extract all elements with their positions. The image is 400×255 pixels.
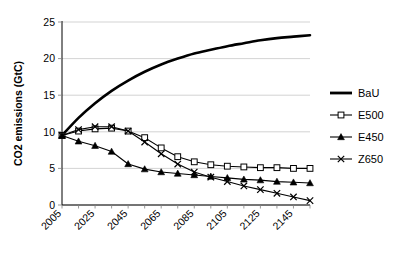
legend-label-e500: E500 <box>358 109 384 121</box>
y-tick-label: 15 <box>43 89 55 101</box>
marker-e500 <box>224 163 230 169</box>
marker-e500 <box>258 165 264 171</box>
co2-emissions-line-chart: 0510152025200520252045206520852105212521… <box>0 0 400 255</box>
x-tick-label: 2025 <box>71 207 96 232</box>
legend-marker-e500 <box>338 112 344 118</box>
y-tick-label: 25 <box>43 16 55 28</box>
marker-e500 <box>274 165 280 171</box>
y-tick-label: 5 <box>49 162 55 174</box>
x-tick-label: 2125 <box>237 207 262 232</box>
marker-e500 <box>191 159 197 165</box>
series-line-e500 <box>62 128 310 168</box>
x-tick-label: 2005 <box>38 207 63 232</box>
y-axis-title: CO2 emissions (GtC) <box>12 61 24 166</box>
legend-label-z650: Z650 <box>358 153 383 165</box>
marker-e500 <box>307 166 313 172</box>
series-line-bau <box>62 35 310 135</box>
chart-container: 0510152025200520252045206520852105212521… <box>0 0 400 255</box>
marker-e500 <box>291 166 297 172</box>
legend-label-e450: E450 <box>358 131 384 143</box>
marker-e450 <box>125 161 132 167</box>
marker-e500 <box>241 164 247 170</box>
marker-e500 <box>175 154 181 160</box>
legend-label-bau: BaU <box>358 87 379 99</box>
x-tick-label: 2045 <box>105 207 130 232</box>
x-tick-label: 2065 <box>138 207 163 232</box>
marker-e500 <box>158 145 164 151</box>
marker-e500 <box>208 162 214 168</box>
y-tick-label: 10 <box>43 126 55 138</box>
y-tick-label: 20 <box>43 52 55 64</box>
x-tick-label: 2105 <box>204 207 229 232</box>
x-tick-label: 2085 <box>171 207 196 232</box>
series-line-z650 <box>62 127 310 201</box>
x-tick-label: 2145 <box>270 207 295 232</box>
